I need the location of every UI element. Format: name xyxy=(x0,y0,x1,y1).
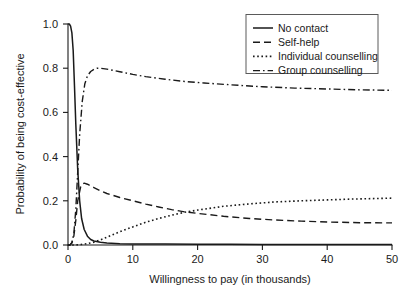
legend-label-group-counselling: Group counselling xyxy=(278,64,363,76)
ceac-plot: 1.0 0.8 0.6 0.4 0.2 0.0 0 10 20 30 40 50… xyxy=(0,0,416,296)
chart-figure: 1.0 0.8 0.6 0.4 0.2 0.0 0 10 20 30 40 50… xyxy=(0,0,416,296)
x-axis-tick-labels: 0 10 20 30 40 50 xyxy=(65,253,398,265)
y-tick-label: 1.0 xyxy=(43,18,58,30)
series-line-self-help xyxy=(68,183,392,245)
legend-label-individual-counselling: Individual counselling xyxy=(278,50,378,62)
legend-label-no-contact: No contact xyxy=(278,22,328,34)
series-line-group-counselling xyxy=(68,68,392,245)
y-axis-ticks xyxy=(63,24,68,245)
x-tick-label: 10 xyxy=(127,253,139,265)
y-axis-title: Probability of being cost-effective xyxy=(14,53,26,214)
y-tick-label: 0.2 xyxy=(43,195,58,207)
x-tick-label: 20 xyxy=(191,253,203,265)
x-tick-label: 40 xyxy=(321,253,333,265)
x-tick-label: 50 xyxy=(386,253,398,265)
legend-label-self-help: Self-help xyxy=(278,36,320,48)
y-tick-label: 0.8 xyxy=(43,62,58,74)
y-tick-label: 0.4 xyxy=(43,151,58,163)
x-axis-title: Willingness to pay (in thousands) xyxy=(149,273,310,285)
y-axis-tick-labels: 1.0 0.8 0.6 0.4 0.2 0.0 xyxy=(43,18,58,251)
y-tick-label: 0.0 xyxy=(43,239,58,251)
x-tick-label: 30 xyxy=(256,253,268,265)
series-line-individual-counselling xyxy=(68,198,392,245)
x-tick-label: 0 xyxy=(65,253,71,265)
legend: No contactSelf-helpIndividual counsellin… xyxy=(246,15,378,77)
y-tick-label: 0.6 xyxy=(43,106,58,118)
x-axis-ticks xyxy=(68,245,392,250)
